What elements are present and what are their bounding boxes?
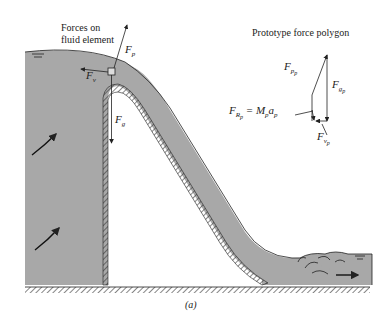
poly-F-p-subsub: p: [294, 71, 297, 77]
label-F-v: Fv: [86, 69, 96, 84]
polygon-label-F-v: Fvp: [317, 130, 330, 147]
F-v-symbol: F: [86, 69, 93, 81]
F-p-subscript: p: [132, 50, 136, 58]
F-g-subscript: g: [122, 120, 126, 128]
label-F-p: Fp: [125, 43, 135, 58]
spillway-diagram: [0, 0, 387, 332]
poly-F-v-symbol: F: [317, 130, 324, 142]
poly-F-R-equals-M: = M: [243, 104, 265, 116]
polygon-title: Prototype force polygon: [252, 27, 349, 38]
forces-on-element-label: Forces on fluid element: [61, 22, 114, 46]
polygon-label-F-g: Fgp: [332, 78, 345, 95]
ground: [25, 287, 370, 293]
poly-F-R-symbol: F: [229, 104, 236, 116]
label-F-g: Fg: [115, 113, 125, 128]
forces-on-label-line2: fluid element: [61, 34, 114, 46]
force-polygon: [295, 55, 327, 135]
poly-F-g-symbol: F: [332, 78, 339, 90]
forces-on-label-line1: Forces on: [61, 22, 114, 34]
poly-F-g-subsub: p: [342, 89, 345, 95]
figure-caption: (a): [185, 299, 197, 310]
poly-F-p-symbol: F: [284, 60, 291, 72]
spillway-figure: Forces on fluid element Fp Fv Fg Prototy…: [0, 0, 387, 332]
polygon-label-F-R: FRp = Mpap: [229, 104, 278, 121]
F-p-symbol: F: [125, 43, 132, 55]
F-v-subscript: v: [93, 76, 96, 84]
poly-a-sub: p: [274, 111, 278, 119]
poly-F-v-subsub: p: [327, 141, 330, 147]
polygon-label-F-p: Fpp: [284, 60, 297, 77]
F-g-symbol: F: [115, 113, 122, 125]
